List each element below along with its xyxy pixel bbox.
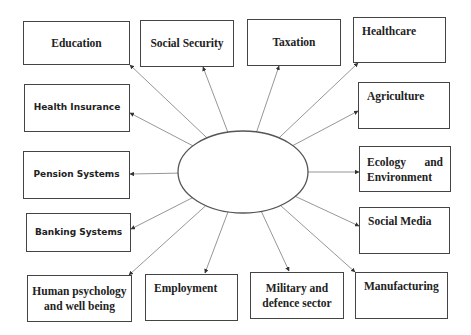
node-pension-systems: Pension Systems: [23, 151, 130, 199]
node-label: Social Media: [368, 214, 432, 229]
node-label: Taxation: [272, 35, 315, 50]
node-banking-systems: Banking Systems: [26, 213, 131, 252]
node-agriculture: Agriculture: [358, 82, 450, 129]
node-label: Healthcare: [362, 24, 416, 39]
node-label: Education: [51, 36, 102, 51]
node-label: Agriculture: [367, 89, 424, 104]
arrow-to-banking-systems: [131, 198, 192, 229]
arrow-to-taxation: [257, 66, 279, 132]
arrow-to-pension-systems: [130, 173, 178, 174]
node-social-security: Social Security: [140, 20, 234, 67]
arrow-to-human-psychology: [129, 206, 206, 275]
arrow-to-military-defence: [261, 211, 289, 271]
arrow-to-education: [130, 65, 207, 138]
arrow-to-agriculture: [293, 111, 358, 146]
node-label: Social Security: [150, 36, 223, 51]
arrow-to-healthcare: [279, 63, 358, 138]
arrow-to-employment: [205, 212, 228, 273]
node-ecology-environment: Ecology and Environment: [359, 146, 451, 192]
node-military-defence: Military and defence sector: [250, 272, 344, 319]
arrow-to-manufacturing: [281, 205, 355, 272]
arrow-to-social-media: [295, 196, 359, 226]
node-health-insurance: Health Insurance: [24, 84, 130, 132]
central-ellipse: [178, 131, 308, 213]
node-taxation: Taxation: [247, 19, 341, 66]
node-label: Banking Systems: [35, 227, 122, 239]
node-education: Education: [23, 21, 130, 65]
node-label: Manufacturing: [364, 279, 439, 294]
node-label: Human psychology and well being: [28, 284, 131, 314]
node-employment: Employment: [145, 274, 238, 321]
arrow-to-social-security: [203, 67, 228, 132]
node-label: Pension Systems: [33, 169, 119, 181]
node-human-psychology: Human psychology and well being: [27, 275, 132, 322]
node-label: Health Insurance: [34, 102, 121, 114]
node-manufacturing: Manufacturing: [355, 272, 448, 319]
arrow-to-health-insurance: [130, 113, 193, 146]
node-healthcare: Healthcare: [353, 17, 446, 63]
node-label: Military and defence sector: [251, 281, 343, 311]
node-social-media: Social Media: [359, 207, 450, 254]
node-label: Ecology and Environment: [367, 155, 443, 185]
mind-map-diagram: EducationSocial SecurityTaxationHealthca…: [0, 0, 471, 335]
node-label: Employment: [154, 281, 217, 296]
